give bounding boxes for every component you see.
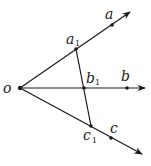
point-b <box>125 86 129 90</box>
point-c <box>109 136 113 140</box>
label-b1: b <box>86 70 95 86</box>
label-a1: a <box>66 31 74 47</box>
label-c1-subscript: 1 <box>92 136 97 145</box>
point-b1 <box>82 86 86 90</box>
label-a1-subscript: 1 <box>75 39 80 48</box>
label-o: o <box>3 80 11 96</box>
label-c1: c <box>83 127 91 143</box>
point-o <box>18 86 22 90</box>
point-a <box>110 23 114 27</box>
label-c: c <box>110 120 118 136</box>
label-a: a <box>105 6 113 22</box>
label-b1-subscript: 1 <box>95 78 100 87</box>
ray-diagram: o a b c a 1 b 1 c 1 <box>0 0 151 166</box>
label-b: b <box>121 68 130 84</box>
ray-oc <box>20 88 142 154</box>
